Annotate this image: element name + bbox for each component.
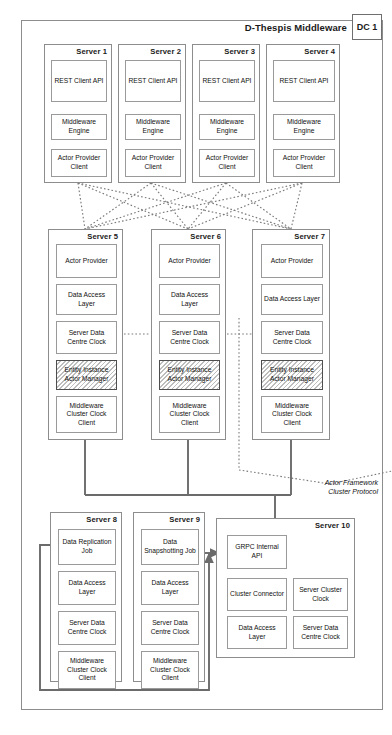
server-card-10[interactable]: Server 10 GRPC Internal API Cluster Conn…: [216, 518, 355, 658]
component-actor-provider-client[interactable]: Actor Provider Client: [199, 149, 255, 177]
component-actor-provider-client[interactable]: Actor Provider Client: [273, 149, 335, 177]
component-middleware-cluster-clock-client[interactable]: Middleware Cluster Clock Client: [56, 396, 117, 433]
server-label: Server 1: [76, 47, 107, 56]
server-label: Server 2: [150, 47, 181, 56]
component-rest-client-api[interactable]: REST Client API: [199, 60, 255, 102]
component-data-access-layer[interactable]: Data Access Layer: [141, 571, 199, 605]
component-actor-provider[interactable]: Actor Provider: [56, 244, 117, 278]
server-card-7[interactable]: Server 7 Actor Provider Data Access Laye…: [252, 229, 330, 440]
component-middleware-engine[interactable]: Middleware Engine: [125, 114, 181, 140]
component-server-data-centre-clock[interactable]: Server Data Centre Clock: [58, 611, 116, 645]
component-rest-client-api[interactable]: REST Client API: [273, 60, 335, 102]
component-actor-provider[interactable]: Actor Provider: [261, 244, 323, 278]
component-server-data-centre-clock[interactable]: Server Data Centre Clock: [293, 616, 348, 649]
component-entity-instance-actor-manager[interactable]: Entity Instance Actor Manager: [261, 360, 323, 390]
component-data-access-layer[interactable]: Data Access Layer: [58, 571, 116, 605]
component-data-access-layer[interactable]: Data Access Layer: [261, 284, 323, 315]
annotation-line-1: Actor Framework: [325, 479, 378, 486]
component-entity-instance-actor-manager[interactable]: Entity Instance Actor Manager: [159, 360, 220, 390]
server-card-6[interactable]: Server 6 Actor Provider Data Access Laye…: [151, 229, 226, 440]
server-card-3[interactable]: Server 3 REST Client API Middleware Engi…: [192, 44, 260, 183]
component-grpc-internal-api[interactable]: GRPC Internal API: [227, 535, 287, 569]
annotation-line-2: Cluster Protocol: [328, 488, 378, 495]
server-card-2[interactable]: Server 2 REST Client API Middleware Engi…: [118, 44, 186, 183]
diagram-title: D-Thespis Middleware: [245, 22, 347, 33]
component-actor-provider-client[interactable]: Actor Provider Client: [51, 149, 107, 177]
component-middleware-engine[interactable]: Middleware Engine: [273, 114, 335, 140]
component-server-cluster-clock[interactable]: Server Cluster Clock: [293, 578, 348, 611]
server-label: Server 9: [169, 515, 200, 524]
server-card-4[interactable]: Server 4 REST Client API Middleware Engi…: [266, 44, 340, 183]
component-middleware-cluster-clock-client[interactable]: Middleware Cluster Clock Client: [159, 396, 220, 433]
server-label: Server 7: [294, 232, 325, 241]
component-data-access-layer[interactable]: Data Access Layer: [159, 284, 220, 315]
diagram-canvas: D-Thespis Middleware DC 1: [0, 0, 392, 735]
server-card-1[interactable]: Server 1 REST Client API Middleware Engi…: [44, 44, 112, 183]
server-card-8[interactable]: Server 8 Data Replication Job Data Acces…: [50, 512, 122, 682]
server-card-9[interactable]: Server 9 Data Snapshotting Job Data Acce…: [133, 512, 205, 682]
server-label: Server 6: [190, 232, 221, 241]
data-centre-badge: DC 1: [352, 14, 382, 40]
component-data-snapshotting-job[interactable]: Data Snapshotting Job: [141, 529, 199, 565]
server-label: Server 3: [224, 47, 255, 56]
component-server-data-centre-clock[interactable]: Server Data Centre Clock: [141, 611, 199, 645]
component-middleware-cluster-clock-client[interactable]: Middleware Cluster Clock Client: [58, 651, 116, 689]
component-actor-provider[interactable]: Actor Provider: [159, 244, 220, 278]
component-middleware-engine[interactable]: Middleware Engine: [199, 114, 255, 140]
cluster-protocol-annotation: Actor Framework Cluster Protocol: [286, 478, 378, 497]
component-server-data-centre-clock[interactable]: Server Data Centre Clock: [261, 321, 323, 354]
component-data-access-layer[interactable]: Data Access Layer: [56, 284, 117, 315]
server-label: Server 8: [86, 515, 117, 524]
component-middleware-cluster-clock-client[interactable]: Middleware Cluster Clock Client: [261, 396, 323, 433]
component-entity-instance-actor-manager[interactable]: Entity Instance Actor Manager: [56, 360, 117, 390]
server-label: Server 10: [315, 521, 350, 530]
component-data-access-layer[interactable]: Data Access Layer: [227, 616, 287, 649]
component-rest-client-api[interactable]: REST Client API: [125, 60, 181, 102]
component-rest-client-api[interactable]: REST Client API: [51, 60, 107, 102]
component-middleware-cluster-clock-client[interactable]: Middleware Cluster Clock Client: [141, 651, 199, 689]
component-server-data-centre-clock[interactable]: Server Data Centre Clock: [159, 321, 220, 354]
server-label: Server 4: [304, 47, 335, 56]
component-actor-provider-client[interactable]: Actor Provider Client: [125, 149, 181, 177]
server-label: Server 5: [87, 232, 118, 241]
component-middleware-engine[interactable]: Middleware Engine: [51, 114, 107, 140]
component-data-replication-job[interactable]: Data Replication Job: [58, 529, 116, 565]
component-cluster-connector[interactable]: Cluster Connector: [227, 578, 287, 611]
server-card-5[interactable]: Server 5 Actor Provider Data Access Laye…: [48, 229, 123, 440]
component-server-data-centre-clock[interactable]: Server Data Centre Clock: [56, 321, 117, 354]
